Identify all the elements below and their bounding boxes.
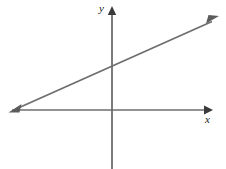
y-axis-arrowhead-icon bbox=[108, 6, 116, 15]
line-arrowhead-right-icon bbox=[206, 15, 219, 24]
line-arrowhead-left-icon bbox=[9, 104, 22, 113]
graph-figure: y x bbox=[0, 0, 226, 169]
coordinate-plane-svg bbox=[0, 0, 226, 169]
y-axis-label: y bbox=[99, 3, 104, 14]
plotted-line bbox=[16, 22, 212, 110]
x-axis-label: x bbox=[205, 114, 210, 125]
